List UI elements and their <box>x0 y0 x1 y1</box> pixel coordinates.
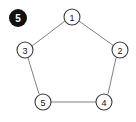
node-1-label: 1 <box>69 13 74 23</box>
graph-node-1[interactable]: 1 <box>64 9 80 25</box>
node-2-label: 2 <box>117 46 122 56</box>
graph-node-5[interactable]: 5 <box>35 94 51 110</box>
graph-node-2[interactable]: 2 <box>112 42 128 58</box>
node-5-label: 5 <box>40 98 45 108</box>
panel-label-badge: 5 <box>9 9 27 27</box>
badge-label: 5 <box>15 13 21 24</box>
node-3-label: 3 <box>22 46 27 56</box>
graph-node-3[interactable]: 3 <box>17 42 33 58</box>
graph-node-4[interactable]: 4 <box>96 94 112 110</box>
graph-diagram-figure: 1 2 3 4 5 5 <box>0 0 136 122</box>
node-4-label: 4 <box>101 98 106 108</box>
